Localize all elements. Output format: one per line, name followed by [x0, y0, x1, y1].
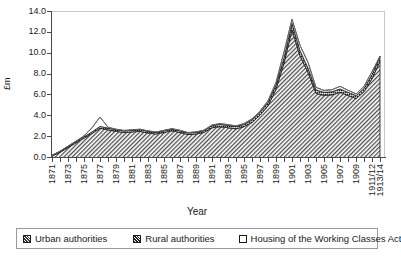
x-tick-mark: [140, 158, 141, 162]
y-tick-mark: [47, 11, 51, 12]
x-tick-mark: [308, 158, 309, 162]
x-tick-mark: [156, 158, 157, 162]
y-axis-line: [51, 11, 52, 158]
x-tick-label: 1899: [272, 164, 281, 184]
y-tick-label: 0.0: [14, 153, 46, 162]
chart-legend: Urban authoritiesRural authoritiesHousin…: [16, 228, 378, 249]
x-tick-label: 1905: [320, 164, 329, 184]
x-tick-label: 1897: [256, 164, 265, 184]
x-tick-mark: [76, 158, 77, 162]
x-tick-mark: [228, 158, 229, 162]
x-tick-mark: [300, 158, 301, 162]
y-axis-tick-labels: 0.02.04.06.08.010.012.014.0: [14, 0, 46, 259]
x-tick-mark: [132, 158, 133, 162]
y-tick-label: 12.0: [14, 27, 46, 36]
x-tick-mark: [324, 158, 325, 162]
legend-item-label: Rural authorities: [145, 233, 214, 244]
x-tick-label: 1873: [64, 164, 73, 184]
x-tick-mark: [68, 158, 69, 162]
x-tick-label: 1887: [176, 164, 185, 184]
act-white-swatch: [239, 235, 247, 243]
urban-hatch-swatch: [23, 235, 31, 243]
x-tick-label: 1879: [112, 164, 121, 184]
x-tick-label: 1901: [288, 164, 297, 184]
y-tick-mark: [47, 94, 51, 95]
x-tick-mark: [116, 158, 117, 162]
plot-area: [51, 11, 385, 157]
x-tick-label: 1913/14: [376, 164, 385, 197]
x-tick-mark: [172, 158, 173, 162]
x-tick-label: 1875: [80, 164, 89, 184]
x-tick-mark: [124, 158, 125, 162]
x-tick-label: 1891: [208, 164, 217, 184]
x-tick-mark: [84, 158, 85, 162]
x-tick-mark: [268, 158, 269, 162]
x-tick-mark: [100, 158, 101, 162]
x-tick-label: 1903: [304, 164, 313, 184]
x-tick-mark: [316, 158, 317, 162]
x-tick-mark: [252, 158, 253, 162]
legend-item-label: Urban authorities: [35, 233, 107, 244]
x-tick-mark: [364, 158, 365, 162]
plot-svg: [51, 12, 385, 158]
x-tick-label: 1881: [128, 164, 137, 184]
x-tick-mark: [372, 158, 373, 162]
x-tick-mark: [212, 158, 213, 162]
x-tick-mark: [244, 158, 245, 162]
y-tick-mark: [47, 74, 51, 75]
y-tick-mark: [47, 136, 51, 137]
x-tick-mark: [284, 158, 285, 162]
x-tick-label: 1877: [96, 164, 105, 184]
x-tick-label: 1883: [144, 164, 153, 184]
x-axis-title: Year: [0, 206, 394, 217]
legend-item[interactable]: Housing of the Working Classes Act: [215, 233, 401, 244]
x-tick-label: 1895: [240, 164, 249, 184]
y-tick-mark: [47, 115, 51, 116]
y-tick-mark: [47, 53, 51, 54]
x-tick-label: 1871: [48, 164, 57, 184]
x-tick-mark: [164, 158, 165, 162]
y-tick-mark: [47, 157, 51, 158]
x-tick-mark: [220, 158, 221, 162]
y-tick-label: 6.0: [14, 90, 46, 99]
x-tick-mark: [276, 158, 277, 162]
x-tick-mark: [196, 158, 197, 162]
y-tick-label: 8.0: [14, 69, 46, 78]
y-tick-label: 4.0: [14, 111, 46, 120]
x-tick-label: 1889: [192, 164, 201, 184]
x-tick-mark: [260, 158, 261, 162]
legend-item-label: Housing of the Working Classes Act: [251, 233, 401, 244]
x-tick-mark: [108, 158, 109, 162]
x-tick-label: 1907: [336, 164, 345, 184]
legend-item[interactable]: Urban authorities: [17, 233, 107, 244]
x-tick-label: 1893: [224, 164, 233, 184]
x-tick-mark: [188, 158, 189, 162]
x-tick-mark: [204, 158, 205, 162]
x-tick-mark: [148, 158, 149, 162]
y-tick-label: 10.0: [14, 48, 46, 57]
x-tick-mark: [292, 158, 293, 162]
y-tick-label: 14.0: [14, 7, 46, 16]
y-tick-label: 2.0: [14, 132, 46, 141]
x-tick-label: 1885: [160, 164, 169, 184]
legend-item[interactable]: Rural authorities: [107, 233, 214, 244]
x-tick-mark: [380, 158, 381, 162]
rural-dense-swatch: [133, 235, 141, 243]
x-tick-mark: [340, 158, 341, 162]
x-tick-mark: [236, 158, 237, 162]
x-tick-mark: [52, 158, 53, 162]
x-tick-mark: [356, 158, 357, 162]
x-tick-mark: [60, 158, 61, 162]
x-axis-line: [51, 157, 386, 158]
x-tick-mark: [348, 158, 349, 162]
x-tick-mark: [332, 158, 333, 162]
x-tick-mark: [180, 158, 181, 162]
y-tick-mark: [47, 32, 51, 33]
x-tick-label: 1909: [352, 164, 361, 184]
x-tick-mark: [92, 158, 93, 162]
